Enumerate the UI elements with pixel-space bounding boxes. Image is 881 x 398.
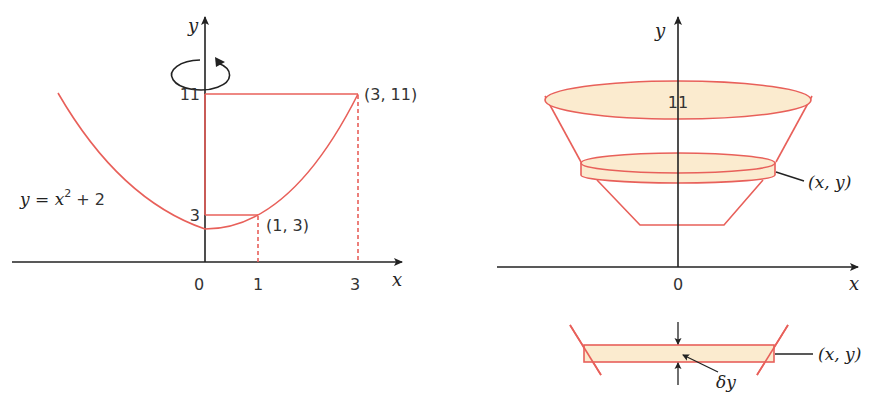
disc-leader-line <box>776 172 804 181</box>
solid-lower-part <box>597 180 763 225</box>
figure-canvas: y x 0 1 3 3 11 (1, 3) (3, 11) y = x2 + 2 <box>0 0 881 398</box>
tick-y-3: 3 <box>190 206 200 225</box>
point-label-3-11: (3, 11) <box>364 85 417 104</box>
right-origin-label: 0 <box>673 275 683 294</box>
right-solid: y x 0 11 (x, y) <box>497 17 859 294</box>
left-graph: y x 0 1 3 3 11 (1, 3) (3, 11) y = x2 + 2 <box>12 15 417 294</box>
point-label-1-3: (1, 3) <box>266 216 309 235</box>
tick-x-0: 0 <box>194 275 204 294</box>
delta-y-label: δy <box>716 372 736 392</box>
right-y-label: y <box>654 20 666 41</box>
tick-y-11: 11 <box>180 85 200 104</box>
tick-x-3: 3 <box>350 275 360 294</box>
disc-detail: (x, y) δy <box>570 322 861 392</box>
top-label-11: 11 <box>668 93 688 112</box>
equation-label: y = x2 + 2 <box>19 187 105 209</box>
left-x-label: x <box>392 269 402 290</box>
right-x-label: x <box>849 273 859 294</box>
disc-point-label: (x, y) <box>808 172 851 192</box>
tick-x-1: 1 <box>253 275 263 294</box>
detail-point-label: (x, y) <box>818 344 861 364</box>
detail-strip <box>584 345 774 362</box>
left-y-label: y <box>187 15 199 36</box>
